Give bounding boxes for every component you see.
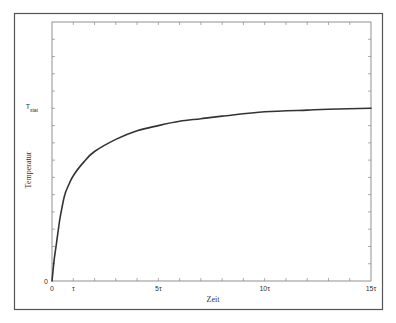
chart: 0τ5τ10τ15τ0Tstat Zeit Temperatur bbox=[0, 0, 396, 323]
plot-area bbox=[52, 22, 371, 281]
y-tick-label: 0 bbox=[44, 278, 48, 285]
x-tick-label: 15τ bbox=[366, 285, 377, 292]
x-axis-title: Zeit bbox=[207, 295, 221, 304]
y-axis-title: Temperatur bbox=[24, 151, 33, 188]
x-tick-label: 10τ bbox=[259, 285, 270, 292]
x-tick-label: τ bbox=[72, 285, 75, 292]
x-tick-label: 0 bbox=[50, 285, 54, 292]
x-tick-label: 5τ bbox=[155, 285, 162, 292]
